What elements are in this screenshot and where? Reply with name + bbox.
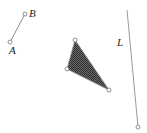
line-l-endpoint[interactable] <box>136 125 140 129</box>
label-l: L <box>116 36 123 48</box>
shaded-triangle[interactable] <box>67 40 109 90</box>
segment-ab[interactable] <box>10 14 25 42</box>
geometry-diagram: A B L <box>0 0 147 133</box>
triangle-vertex-right[interactable] <box>107 88 111 92</box>
triangle-vertex-top[interactable] <box>73 38 77 42</box>
label-a: A <box>8 44 16 56</box>
triangle-vertex-left[interactable] <box>65 67 69 71</box>
label-b: B <box>29 7 36 19</box>
point-b[interactable] <box>23 12 27 16</box>
line-l[interactable] <box>127 10 138 127</box>
